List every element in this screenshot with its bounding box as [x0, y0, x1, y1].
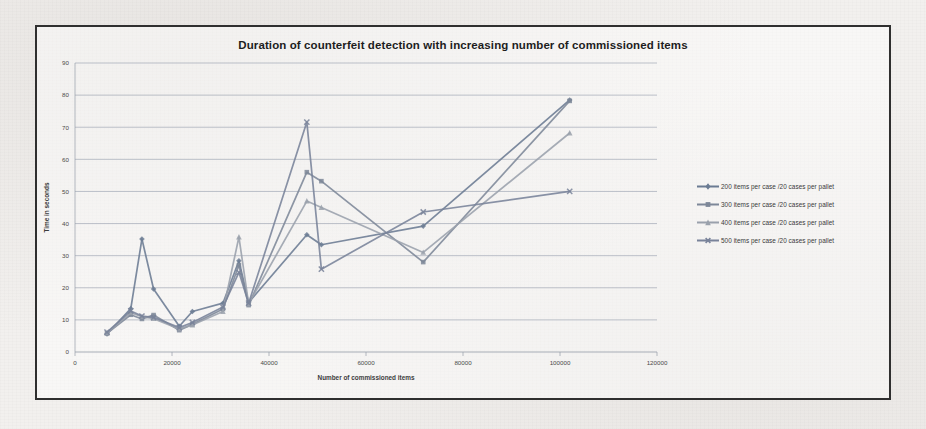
legend-item[interactable]: 300 items per case /20 cases per pallet: [697, 200, 887, 209]
x-axis-tick-label: 80000: [454, 359, 472, 366]
y-axis-tick-label: 0: [66, 348, 70, 355]
legend-label-series-3: 400 items per case /20 cases per pallet: [721, 219, 834, 226]
y-axis-tick-label: 60: [62, 156, 69, 163]
legend-marker-series-3: [697, 218, 719, 227]
x-axis-tick-label: 100000: [550, 359, 571, 366]
x-axis-tick-label: 120000: [647, 359, 668, 366]
x-axis-tick-label: 40000: [260, 359, 278, 366]
y-axis-tick-label: 90: [62, 59, 69, 66]
y-axis-title: Time in seconds: [43, 182, 50, 232]
series-line-3: [104, 130, 572, 335]
legend-label-series-1: 200 items per case /20 cases per pallet: [721, 183, 834, 190]
series-line-4: [104, 119, 572, 334]
legend-label-series-4: 500 items per case /20 cases per pallet: [721, 237, 834, 244]
series-line-2: [105, 99, 572, 336]
legend-label-series-2: 300 items per case /20 cases per pallet: [721, 201, 834, 208]
y-axis-tick-label: 10: [62, 316, 69, 323]
y-axis-tick-label: 80: [62, 91, 69, 98]
legend-marker-series-1: [697, 182, 719, 191]
legend-marker-series-4: [697, 236, 719, 245]
y-axis-tick-label: 40: [62, 220, 69, 227]
y-axis-tick-label: 30: [62, 252, 69, 259]
legend-item[interactable]: 200 items per case /20 cases per pallet: [697, 182, 887, 191]
legend-item[interactable]: 500 items per case /20 cases per pallet: [697, 236, 887, 245]
y-axis-tick-label: 70: [62, 124, 69, 131]
series-line-1: [104, 97, 572, 337]
chart-frame: Duration of counterfeit detection with i…: [35, 25, 891, 400]
legend-marker-series-2: [697, 200, 719, 209]
x-axis-tick-label: 0: [73, 359, 77, 366]
legend-item[interactable]: 400 items per case /20 cases per pallet: [697, 218, 887, 227]
x-axis-tick-label: 20000: [163, 359, 181, 366]
y-axis-tick-label: 50: [62, 188, 69, 195]
y-axis-tick-label: 20: [62, 284, 69, 291]
x-axis-title: Number of commissioned items: [318, 374, 415, 381]
x-axis-tick-label: 60000: [357, 359, 375, 366]
chart-legend: 200 items per case /20 cases per pallet …: [697, 182, 887, 254]
